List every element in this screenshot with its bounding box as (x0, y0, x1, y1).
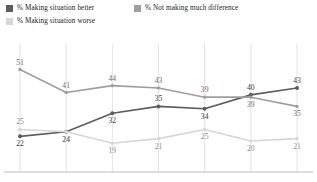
data-label: 35 (155, 94, 163, 103)
data-label: 51 (16, 58, 24, 67)
legend-swatch-icon (6, 18, 13, 25)
data-label: 21 (293, 142, 301, 151)
data-label: 25 (201, 132, 209, 141)
data-label: 25 (16, 117, 24, 126)
legend-swatch-icon (134, 5, 141, 12)
legend-swatch-icon (6, 5, 13, 12)
chart-root: % Making situation better % Not making m… (0, 0, 317, 182)
data-label: 21 (155, 142, 163, 151)
legend-item-making-situation-worse[interactable]: % Making situation worse (6, 17, 176, 26)
data-point[interactable] (295, 105, 298, 108)
data-point[interactable] (110, 111, 114, 115)
data-point[interactable] (157, 104, 161, 108)
data-label: 19 (109, 146, 117, 155)
data-point[interactable] (249, 95, 252, 98)
data-point[interactable] (203, 95, 206, 98)
data-point[interactable] (111, 84, 114, 87)
data-label: 24 (62, 135, 70, 144)
data-point[interactable] (18, 128, 21, 131)
data-label: 39 (201, 85, 209, 94)
data-point[interactable] (18, 134, 22, 138)
chart-legend: % Making situation better % Not making m… (6, 4, 311, 26)
data-point[interactable] (203, 107, 207, 111)
data-point[interactable] (249, 139, 252, 142)
data-label: 34 (201, 112, 209, 121)
data-label: 22 (16, 139, 24, 148)
data-label: 43 (155, 76, 163, 85)
data-point[interactable] (64, 91, 67, 94)
data-label: 20 (247, 144, 255, 153)
data-point[interactable] (203, 128, 206, 131)
data-point[interactable] (64, 130, 67, 133)
data-label: 40 (247, 83, 255, 92)
data-point[interactable] (295, 86, 299, 90)
data-label: 44 (109, 74, 117, 83)
data-point[interactable] (18, 68, 21, 71)
legend-item-not-making-much-difference[interactable]: % Not making much difference (134, 4, 304, 13)
data-point[interactable] (157, 86, 160, 89)
data-label: 43 (293, 76, 301, 85)
data-label: 35 (293, 109, 301, 118)
data-label: 39 (247, 100, 255, 109)
data-label: 41 (62, 81, 70, 90)
data-point[interactable] (295, 137, 298, 140)
legend-item-label: % Not making much difference (145, 4, 238, 13)
data-label: 32 (109, 116, 117, 125)
data-point[interactable] (157, 137, 160, 140)
line-chart-svg: 2224323534404351414443393935252419212520… (0, 44, 317, 182)
legend-item-label: % Making situation worse (17, 17, 95, 26)
legend-item-making-situation-better[interactable]: % Making situation better (6, 4, 134, 13)
legend-item-label: % Making situation better (17, 4, 94, 13)
chart-plot-area: 2224323534404351414443393935252419212520… (0, 44, 317, 182)
data-point[interactable] (111, 142, 114, 145)
